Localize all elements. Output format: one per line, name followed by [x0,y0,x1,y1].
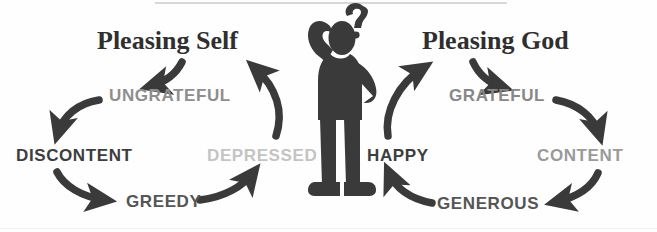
node-content: CONTENT [537,146,623,166]
arrow-generous-to-happy [389,173,432,203]
node-greedy: GREEDY [126,192,201,212]
arrow-content-to-generous [556,173,598,202]
arrow-greedy-to-depressed [200,173,253,200]
node-generous: GENEROUS [437,194,539,214]
arrow-god-to-grateful [473,62,502,87]
node-depressed: DEPRESSED [207,146,317,166]
node-grateful: GRATEFUL [449,86,545,106]
node-ungrateful: UNGRATEFUL [109,86,231,106]
arrow-happy-to-god [387,68,423,136]
heading-pleasing-god: Pleasing God [422,26,569,56]
arrow-self-to-ungrateful [151,62,182,86]
heading-pleasing-self: Pleasing Self [97,26,238,56]
diagram-canvas: Pleasing Self Pleasing God UNGRATEFUL DI… [0,0,657,232]
arrow-ungrateful-to-discontent [58,100,99,133]
node-happy: HAPPY [367,146,429,166]
node-discontent: DISCONTENT [16,146,133,166]
arrow-grateful-to-content [556,100,599,134]
confused-person-icon [308,3,376,196]
arrow-discontent-to-greedy [57,172,105,200]
arrow-depressed-to-self [255,68,279,136]
